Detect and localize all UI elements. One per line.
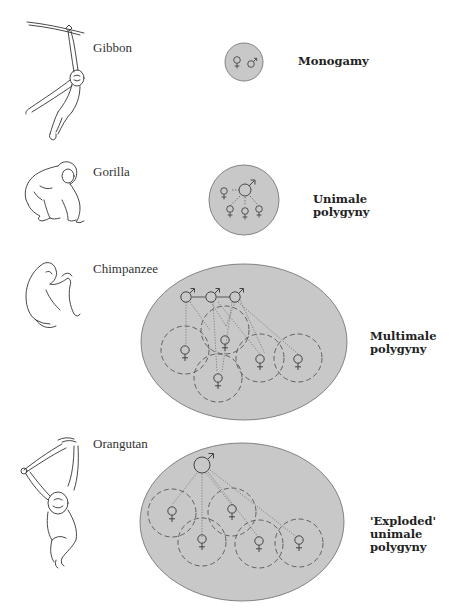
species-label-gorilla: Gorilla [93, 164, 130, 180]
species-label-chimpanzee: Chimpanzee [93, 261, 158, 277]
species-label-orangutan: Orangutan [93, 436, 148, 452]
species-label-gibbon: Gibbon [93, 40, 132, 56]
mating-systems-figure: Gibbon Gorilla Chimpanzee Orangutan Mono… [0, 0, 449, 614]
unimale-territory [209, 165, 279, 235]
monogamy-territory [225, 43, 263, 81]
orangutan-illustration [21, 438, 78, 568]
system-label-exploded-unimale-polygyny: 'Exploded' unimale polygyny [370, 515, 436, 554]
multimale-territory [141, 264, 347, 420]
chimpanzee-illustration [26, 263, 80, 328]
system-label-monogamy: Monogamy [298, 55, 369, 68]
gorilla-illustration [25, 162, 84, 223]
gibbon-illustration [26, 22, 84, 140]
exploded-unimale-territory [140, 443, 344, 601]
system-label-unimale-polygyny: Unimale polygyny [313, 193, 370, 219]
system-label-multimale-polygyny: Multimale polygyny [370, 330, 436, 356]
